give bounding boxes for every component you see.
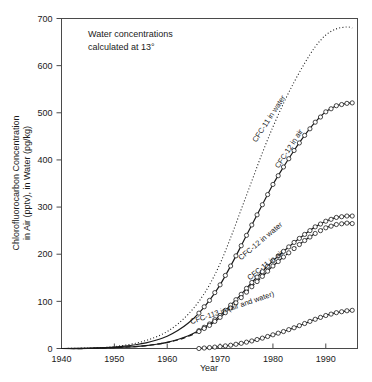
data-point-marker [297,236,301,240]
data-point-marker [292,326,296,330]
data-point-marker [223,344,227,348]
y-tick-label: 600 [37,61,52,71]
data-point-marker [255,213,259,217]
data-point-marker [239,341,243,345]
data-point-marker [244,340,248,344]
data-point-marker [308,319,312,323]
data-point-marker [340,310,344,314]
data-point-marker [345,309,349,313]
x-tick-label: 1980 [263,354,283,364]
data-point-marker [297,324,301,328]
data-point-marker [318,222,322,226]
annotation-line1: Water concentrations [88,29,173,39]
data-point-marker [229,264,233,268]
data-point-marker [260,203,264,207]
data-point-marker [340,102,344,106]
y-tick-label: 100 [37,297,52,307]
data-point-marker [350,214,354,218]
data-point-marker [329,224,333,228]
data-point-marker [255,279,259,283]
data-point-marker [313,231,317,235]
data-point-marker [318,229,322,233]
data-point-marker [340,222,344,226]
data-point-marker [334,215,338,219]
data-point-marker [244,290,248,294]
data-point-marker [260,336,264,340]
data-point-marker [255,337,259,341]
data-point-marker [329,217,333,221]
data-point-marker [308,127,312,131]
chart-canvas: 0100200300400500600700 19401950196019701… [0,0,372,382]
data-point-marker [213,291,217,295]
data-point-marker [318,115,322,119]
data-point-marker [340,215,344,219]
y-tick-label: 0 [47,344,52,354]
data-point-marker [202,346,206,350]
data-point-marker [345,221,349,225]
data-point-marker [197,329,201,333]
data-point-marker [266,334,270,338]
data-point-marker [318,315,322,319]
data-point-marker [266,192,270,196]
data-point-marker [308,229,312,233]
data-point-marker [313,317,317,321]
data-point-marker [324,226,328,230]
data-point-marker [250,339,254,343]
data-point-marker [287,245,291,249]
data-point-marker [334,104,338,108]
data-point-marker [276,174,280,178]
data-point-marker [213,319,217,323]
data-point-marker [207,298,211,302]
data-point-marker [223,273,227,277]
data-point-marker [202,305,206,309]
data-point-marker [260,274,264,278]
y-tick-label: 500 [37,108,52,118]
y-tick-label: 300 [37,202,52,212]
data-point-marker [234,342,238,346]
data-point-marker [329,312,333,316]
data-point-marker [281,329,285,333]
x-tick-label: 1990 [316,354,336,364]
data-point-marker [287,328,291,332]
data-point-marker [276,331,280,335]
y-tick-label: 200 [37,249,52,259]
data-point-marker [250,223,254,227]
data-point-marker [218,345,222,349]
data-point-marker [287,251,291,255]
y-tick-label: 400 [37,155,52,165]
data-point-marker [207,323,211,327]
data-point-marker [239,244,243,248]
cfc-concentration-chart: 0100200300400500600700 19401950196019701… [0,0,372,382]
data-point-marker [292,246,296,250]
data-point-marker [218,283,222,287]
data-point-marker [303,321,307,325]
data-point-marker [303,232,307,236]
data-point-marker [313,120,317,124]
x-tick-label: 1960 [157,354,177,364]
data-point-marker [244,233,248,237]
data-point-marker [345,101,349,105]
data-point-marker [213,345,217,349]
data-point-marker [313,225,317,229]
data-point-marker [207,345,211,349]
data-point-marker [250,285,254,289]
data-point-marker [303,238,307,242]
data-point-marker [197,346,201,350]
data-point-marker [334,222,338,226]
data-point-marker [271,333,275,337]
data-point-marker [292,240,296,244]
data-point-marker [350,308,354,312]
x-axis-title: Year [200,363,218,373]
data-point-marker [350,221,354,225]
x-tick-label: 1940 [51,354,71,364]
annotation-line2: calculated at 13° [88,42,155,52]
x-tick-label: 1950 [104,354,124,364]
data-point-marker [329,107,333,111]
data-point-marker [308,235,312,239]
data-point-marker [345,214,349,218]
data-point-marker [324,219,328,223]
data-point-marker [350,101,354,105]
data-point-marker [334,311,338,315]
y-axis-title-line2: in Air (pptv), in Water (pg/kg) [22,126,32,240]
data-point-marker [324,110,328,114]
